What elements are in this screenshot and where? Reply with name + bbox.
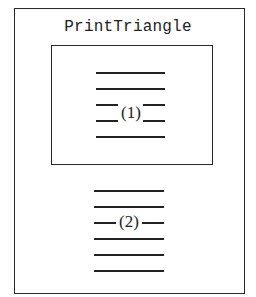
code-line (94, 190, 164, 192)
code-line (94, 254, 164, 256)
outer-block-label: (2) (110, 212, 148, 232)
code-line (96, 72, 165, 74)
code-line (94, 270, 164, 272)
diagram-title: PrintTriangle (0, 18, 256, 36)
inner-block-label: (1) (112, 103, 150, 123)
code-line (96, 136, 165, 138)
code-line (94, 206, 164, 208)
code-line (94, 238, 164, 240)
code-line (96, 88, 165, 90)
